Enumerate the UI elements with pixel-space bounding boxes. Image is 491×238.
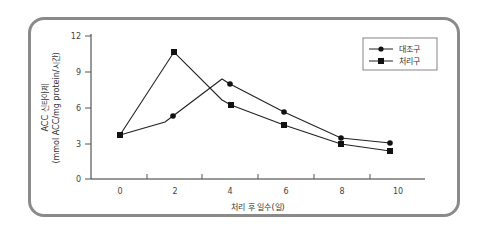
y-axis-title-line2: (mmol ACC/mg protein/시간) [51,52,61,163]
x-ticks: 0 2 4 6 8 10 [117,174,403,196]
series-treatment-line [120,52,390,151]
x-tick-label: 2 [172,187,177,196]
legend-label-treatment: 처리구 [399,57,420,66]
legend-label-control: 대조구 [399,45,420,54]
y-tick-label: 9 [76,68,81,77]
series-control-markers [170,81,393,146]
series-treatment-markers [117,49,393,154]
y-ticks: 12 9 6 3 0 [71,32,91,184]
y-tick-label: 12 [71,32,81,41]
x-tick-label: 10 [393,187,403,196]
y-tick-label: 0 [76,175,81,184]
line-chart: 12 9 6 3 0 0 2 4 6 8 10 처리 후 일수(일) ACC 신… [0,0,491,238]
y-tick-label: 6 [76,104,81,113]
x-axis-title: 처리 후 일수(일) [231,203,284,212]
y-tick-label: 3 [76,140,81,149]
x-tick-label: 4 [227,187,232,196]
series-control-line [120,79,390,143]
y-axis-title-line1: ACC 신타아제 [40,84,50,131]
x-tick-label: 0 [117,187,122,196]
legend-circle-marker-icon [378,46,383,51]
legend-square-marker-icon [378,58,384,64]
x-tick-label: 6 [283,187,288,196]
legend: 대조구 처리구 [363,38,437,70]
x-tick-label: 8 [339,187,344,196]
